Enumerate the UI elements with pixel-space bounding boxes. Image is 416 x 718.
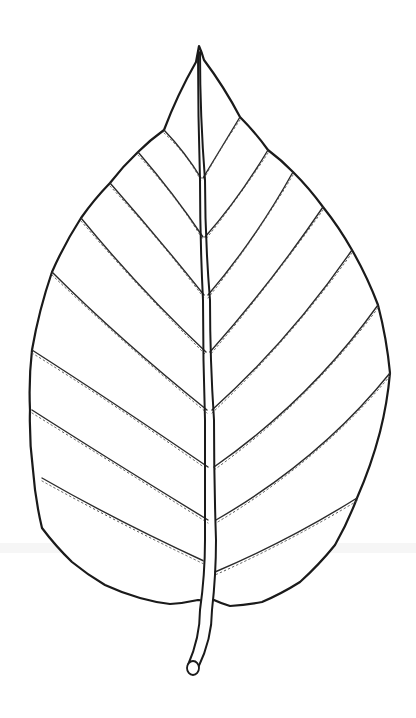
leaf-drawing: [0, 0, 416, 718]
stem-cut-end: [187, 661, 199, 675]
